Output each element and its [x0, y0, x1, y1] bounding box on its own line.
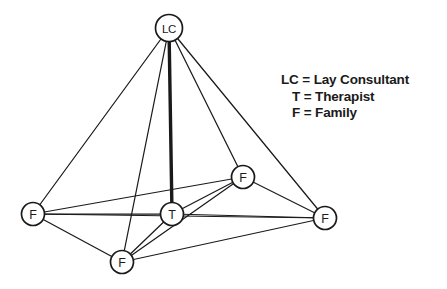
edge-LC-F_bottom	[122, 28, 169, 262]
edge-LC-F_right	[169, 28, 325, 218]
legend-item-family: F = Family	[281, 105, 441, 122]
legend-item-lay-consultant: LC = Lay Consultant	[281, 72, 441, 89]
edge-F_upper_right-F_right	[243, 177, 325, 218]
node-F_bottom[interactable]: F	[111, 251, 134, 274]
node-label-F_right: F	[321, 212, 329, 226]
node-label-T: T	[168, 208, 176, 222]
node-label-F_left: F	[29, 208, 37, 222]
network-graph: LCFFTFF	[0, 0, 447, 289]
edge-LC-F_left	[33, 28, 169, 214]
node-label-F_upper_right: F	[239, 171, 247, 185]
edge-LC-F_upper_right	[169, 28, 243, 177]
node-F_left[interactable]: F	[22, 203, 45, 226]
diagram-canvas: LCFFTFF LC = Lay Consultant T = Therapis…	[0, 0, 447, 289]
node-label-LC: LC	[162, 23, 176, 35]
nodes-group: LCFFTFF	[22, 15, 337, 274]
legend: LC = Lay Consultant T = Therapist F = Fa…	[281, 72, 441, 122]
node-LC[interactable]: LC	[156, 15, 183, 42]
node-label-F_bottom: F	[118, 256, 126, 270]
edge-F_left-F_bottom	[33, 214, 122, 262]
edge-LC-T	[169, 28, 172, 214]
node-F_upper_right[interactable]: F	[232, 166, 255, 189]
legend-item-therapist: T = Therapist	[281, 89, 441, 106]
edges-group	[33, 28, 325, 262]
node-F_right[interactable]: F	[314, 207, 337, 230]
node-T[interactable]: T	[161, 203, 184, 226]
